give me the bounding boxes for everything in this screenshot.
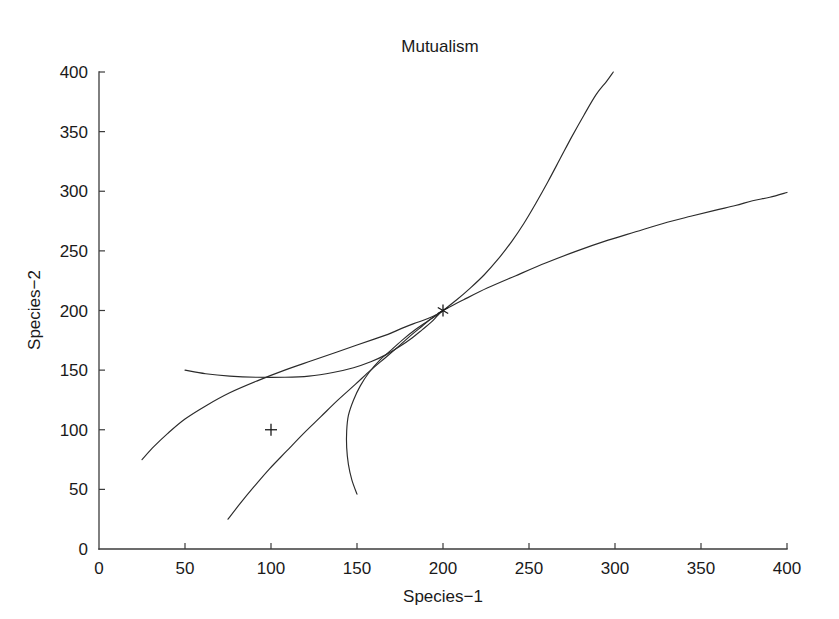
x-tick-label: 100: [257, 559, 285, 578]
y-tick-label: 350: [60, 123, 88, 142]
y-tick-label: 50: [69, 480, 88, 499]
y-tick-label: 200: [60, 302, 88, 321]
y-tick-label: 300: [60, 182, 88, 201]
x-tick-label: 250: [515, 559, 543, 578]
x-tick-label: 50: [176, 559, 195, 578]
x-tick-label: 0: [94, 559, 103, 578]
x-tick-label: 300: [601, 559, 629, 578]
y-tick-label: 100: [60, 421, 88, 440]
chart-figure: Mutualism 050100150200250300350400 05010…: [0, 0, 839, 619]
x-tick-label: 400: [773, 559, 801, 578]
y-tick-label: 0: [79, 540, 88, 559]
y-tick-label: 400: [60, 63, 88, 82]
y-tick-label: 150: [60, 361, 88, 380]
plot-background: [0, 0, 839, 619]
x-tick-label: 350: [687, 559, 715, 578]
y-axis-title: Species−2: [25, 270, 44, 350]
mutualism-phase-plane-plot: Mutualism 050100150200250300350400 05010…: [0, 0, 839, 619]
x-tick-label: 150: [343, 559, 371, 578]
x-axis-title: Species−1: [403, 587, 483, 606]
chart-title: Mutualism: [401, 37, 478, 56]
x-tick-label: 200: [429, 559, 457, 578]
y-tick-label: 250: [60, 242, 88, 261]
